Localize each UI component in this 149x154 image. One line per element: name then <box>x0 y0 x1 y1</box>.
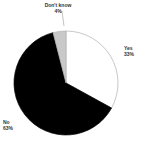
slice-label-yes-value: 33% <box>124 51 148 57</box>
pie-slice-group <box>14 31 118 135</box>
slice-label-no-value: 63% <box>3 125 27 131</box>
slice-label-dontknow-value: 4% <box>39 8 77 14</box>
pie-chart: Don't know 4% Yes 33% No 63% <box>0 0 149 154</box>
slice-label-yes: Yes 33% <box>124 45 148 57</box>
slice-label-dontknow: Don't know 4% <box>39 2 77 14</box>
slice-label-no: No 63% <box>3 119 27 131</box>
